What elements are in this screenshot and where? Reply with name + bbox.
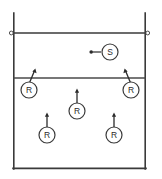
movement-arrow-line xyxy=(30,71,35,83)
receiver-label: R xyxy=(44,130,50,140)
receiver-label: R xyxy=(128,85,134,95)
volleyball-court-diagram: S R R R R xyxy=(0,0,162,179)
player-receiver-left-back[interactable]: R xyxy=(39,112,55,143)
player-receiver-right-front[interactable]: R xyxy=(123,69,139,98)
player-receiver-right-back[interactable]: R xyxy=(106,112,122,143)
net-post-left-icon xyxy=(9,31,13,35)
arrow-head-icon xyxy=(112,112,116,116)
receiver-label: R xyxy=(111,130,117,140)
receiver-label: R xyxy=(26,85,32,95)
player-server[interactable]: S xyxy=(89,44,118,60)
arrow-head-icon xyxy=(75,88,79,92)
ball-icon xyxy=(89,50,93,54)
movement-arrow-line xyxy=(125,71,130,83)
server-label: S xyxy=(107,47,113,57)
player-receiver-left-front[interactable]: R xyxy=(21,69,37,98)
court-svg: S R R R R xyxy=(0,0,162,179)
receiver-label: R xyxy=(74,106,80,116)
net xyxy=(9,31,149,35)
player-receiver-center[interactable]: R xyxy=(69,88,85,119)
net-post-right-icon xyxy=(146,31,150,35)
arrow-head-icon xyxy=(45,112,49,116)
